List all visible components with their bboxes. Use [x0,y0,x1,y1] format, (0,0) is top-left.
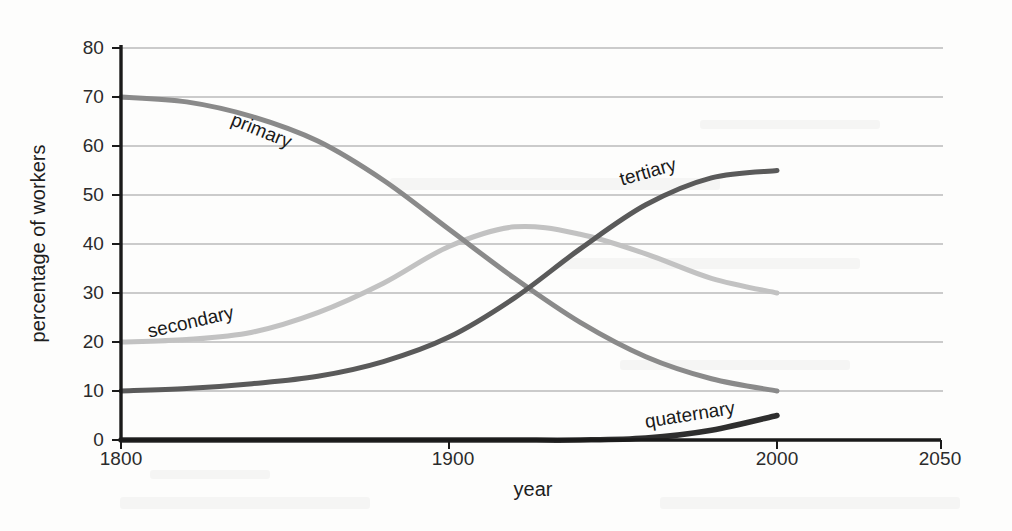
gridlines [121,48,943,391]
y-tick-label: 20 [52,331,104,353]
x-tick-label: 1800 [81,448,161,470]
axes [119,45,941,440]
y-axis-title: percentage of workers [27,139,50,349]
y-tick-label: 40 [52,233,104,255]
y-tick-label: 30 [52,282,104,304]
y-tick-label: 60 [52,135,104,157]
x-tick-label: 2000 [737,448,817,470]
x-tick-label: 2050 [900,448,980,470]
series-curve-tertiary [121,171,777,392]
y-tick-label: 10 [52,380,104,402]
y-tick-label: 80 [52,37,104,59]
y-tick-label: 70 [52,86,104,108]
chart-figure: 80 70 60 50 40 30 20 10 0 1800 1900 2000… [0,0,1012,531]
x-axis-title: year [488,478,578,501]
x-tick-label: 1900 [413,448,493,470]
y-tick-label: 50 [52,184,104,206]
series-curves [121,97,777,440]
